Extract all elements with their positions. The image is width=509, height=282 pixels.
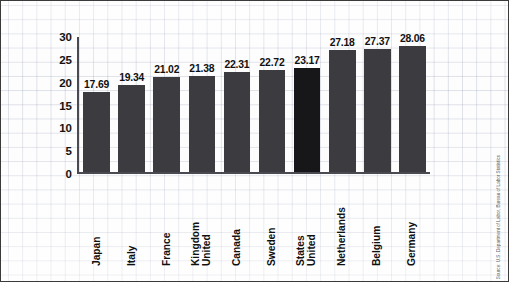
bar[interactable] bbox=[294, 68, 321, 172]
category-label-slot: Japan bbox=[79, 178, 114, 266]
category-label-slot: Belgium bbox=[360, 178, 395, 266]
category-label-slot: France bbox=[149, 178, 184, 266]
bar-slot: 22.31 bbox=[219, 37, 254, 172]
x-axis-line bbox=[77, 172, 430, 174]
bar[interactable] bbox=[189, 76, 216, 172]
bar-value-label: 27.18 bbox=[330, 37, 355, 48]
category-label: Italy bbox=[127, 178, 137, 266]
category-label: Canada bbox=[232, 178, 242, 266]
chart-figure: U.S. Dollars (at purchasing power pariti… bbox=[0, 0, 509, 282]
bar[interactable] bbox=[364, 49, 391, 172]
bar[interactable] bbox=[224, 72, 251, 172]
category-label-slot: UnitedKingdom bbox=[184, 178, 219, 266]
bar-value-label: 21.38 bbox=[189, 63, 214, 74]
category-label-slot: UnitedStates bbox=[290, 178, 325, 266]
category-label-slot: Sweden bbox=[254, 178, 289, 266]
bar-value-label: 22.31 bbox=[224, 59, 249, 70]
bar-value-label: 21.02 bbox=[154, 64, 179, 75]
category-label: States bbox=[296, 178, 306, 266]
bar-value-label: 27.37 bbox=[365, 36, 390, 47]
source-note-text: Source: U.S. Department of Labor, Bureau… bbox=[496, 155, 501, 279]
bar[interactable] bbox=[83, 92, 110, 172]
bar[interactable] bbox=[329, 50, 356, 172]
y-tick-label: 25 bbox=[59, 54, 72, 66]
bar-value-label: 19.34 bbox=[119, 72, 144, 83]
source-note: Source: U.S. Department of Labor, Bureau… bbox=[495, 83, 507, 279]
bar[interactable] bbox=[259, 70, 286, 172]
bar-value-label: 23.17 bbox=[295, 55, 320, 66]
y-tick-label: 10 bbox=[59, 122, 72, 134]
bar-slot: 27.18 bbox=[325, 37, 360, 172]
category-label: United bbox=[308, 178, 318, 266]
category-label: United bbox=[202, 178, 212, 266]
bar-slot: 21.38 bbox=[184, 37, 219, 172]
y-tick-label: 0 bbox=[66, 168, 72, 180]
bar-slot: 17.69 bbox=[79, 37, 114, 172]
bar-slot: 21.02 bbox=[149, 37, 184, 172]
bar[interactable] bbox=[118, 85, 145, 172]
category-label: Japan bbox=[91, 178, 101, 266]
bar-value-label: 17.69 bbox=[84, 79, 109, 90]
category-label: Germany bbox=[407, 178, 417, 266]
bar-slot: 23.17 bbox=[290, 37, 325, 172]
category-label-slot: Germany bbox=[395, 178, 430, 266]
y-tick-label: 5 bbox=[66, 145, 72, 157]
bar-value-label: 28.06 bbox=[400, 33, 425, 44]
bar-slot: 19.34 bbox=[114, 37, 149, 172]
category-label-slot: Netherlands bbox=[325, 178, 360, 266]
y-tick-label: 15 bbox=[59, 100, 72, 112]
bar-slot: 27.37 bbox=[360, 37, 395, 172]
bar[interactable] bbox=[153, 77, 180, 172]
bar[interactable] bbox=[399, 46, 426, 172]
category-label: Sweden bbox=[267, 178, 277, 266]
x-axis-category-labels: JapanItalyFranceUnitedKingdomCanadaSwede… bbox=[79, 178, 430, 266]
category-label: Netherlands bbox=[337, 178, 347, 266]
category-label: Belgium bbox=[372, 178, 382, 266]
bar-slot: 22.72 bbox=[254, 37, 289, 172]
y-tick-label: 20 bbox=[59, 77, 72, 89]
category-label: France bbox=[162, 178, 172, 266]
category-label-slot: Italy bbox=[114, 178, 149, 266]
y-tick-label: 30 bbox=[59, 31, 72, 43]
bar-slot: 28.06 bbox=[395, 37, 430, 172]
bar-series: 17.6919.3421.0221.3822.3122.7223.1727.18… bbox=[79, 37, 430, 172]
plot-area: 051015202530 17.6919.3421.0221.3822.3122… bbox=[77, 37, 430, 174]
category-label-slot: Canada bbox=[219, 178, 254, 266]
category-label: Kingdom bbox=[191, 178, 201, 266]
bar-value-label: 22.72 bbox=[260, 57, 285, 68]
